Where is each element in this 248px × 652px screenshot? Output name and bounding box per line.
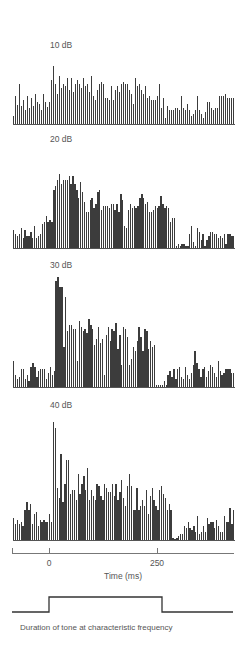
histogram-bar: [233, 373, 234, 387]
histogram-bar: [233, 510, 234, 540]
panel-label: 20 dB: [50, 134, 72, 144]
stimulus-caption: Duration of tone at characteristic frequ…: [20, 623, 173, 632]
panel-label: 30 dB: [50, 260, 72, 270]
histogram-bar: [170, 510, 171, 540]
x-axis-line: [12, 553, 234, 554]
x-tick-label: 250: [150, 558, 164, 568]
x-tick-label: 0: [47, 558, 52, 568]
x-axis-tick: [157, 548, 158, 553]
panel-baseline: [13, 540, 235, 541]
x-axis-tick: [49, 548, 50, 553]
panel-baseline: [13, 387, 235, 388]
histogram-bar: [233, 236, 234, 248]
panel-label: 40 dB: [50, 400, 72, 410]
x-axis-tick: [12, 548, 13, 553]
histogram-bar: [154, 345, 155, 387]
panel-label: 10 dB: [50, 40, 72, 50]
histogram-bar: [174, 218, 175, 248]
panel-baseline: [13, 248, 235, 249]
stimulus-trace: [0, 590, 248, 620]
panel-baseline: [13, 124, 235, 125]
histogram-bar: [233, 98, 234, 124]
x-axis-title: Time (ms): [104, 571, 142, 581]
